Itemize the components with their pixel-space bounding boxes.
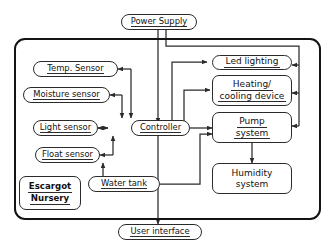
diagram-canvas: Power Supply User interface Temp. Sensor… [0, 0, 331, 250]
nursery-label-line1: Escargot [28, 181, 72, 193]
led-lighting-label: Led lighting [224, 57, 281, 67]
heating-cooling-label-line2: cooling device [218, 91, 287, 102]
node-pump-system[interactable]: Pump system [212, 112, 292, 143]
escargot-nursery-label: Escargot Nursery [19, 176, 81, 210]
node-heating-cooling-device[interactable]: Heating/ cooling device [212, 75, 292, 106]
pump-system-label-line1: Pump [237, 116, 266, 127]
node-user-interface[interactable]: User interface [118, 224, 202, 240]
humidity-system-label-line1: Humidity [230, 168, 275, 178]
node-controller[interactable]: Controller [131, 120, 190, 136]
node-water-tank[interactable]: Water tank [88, 176, 160, 192]
light-sensor-label: Light sensor [40, 123, 91, 132]
temp-sensor-label: Temp. Sensor [47, 64, 103, 73]
node-moisture-sensor[interactable]: Moisture sensor [23, 87, 110, 103]
node-float-sensor[interactable]: Float sensor [35, 147, 100, 163]
pump-system-label-line2: system [234, 128, 271, 139]
moisture-sensor-label: Moisture sensor [33, 90, 99, 99]
water-tank-label: Water tank [101, 179, 147, 188]
nursery-label-line2: Nursery [30, 193, 70, 205]
power-supply-label: Power Supply [131, 17, 188, 26]
node-light-sensor[interactable]: Light sensor [33, 120, 98, 136]
user-interface-label: User interface [130, 227, 189, 236]
controller-label: Controller [140, 123, 181, 132]
node-led-lighting[interactable]: Led lighting [212, 55, 292, 70]
float-sensor-label: Float sensor [42, 150, 93, 159]
node-temp-sensor[interactable]: Temp. Sensor [33, 61, 118, 77]
humidity-system-label-line2: system [234, 179, 271, 189]
node-humidity-system[interactable]: Humidity system [212, 163, 292, 194]
node-power-supply[interactable]: Power Supply [121, 14, 197, 30]
heating-cooling-label-line1: Heating/ [231, 79, 273, 90]
